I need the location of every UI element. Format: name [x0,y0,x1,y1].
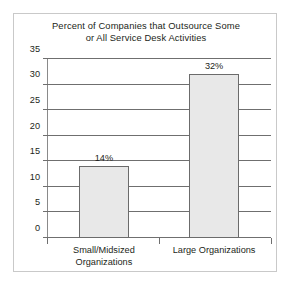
y-tick-mark-10 [43,186,48,187]
y-tick-label-25: 25 [30,96,40,105]
y-tick-mark-35 [43,58,48,59]
y-tick-label-30: 30 [30,71,40,80]
y-tick-label-20: 20 [30,122,40,131]
y-tick-mark-20 [43,135,48,136]
y-tick-label-5: 5 [35,199,40,208]
y-tick-mark-25 [43,109,48,110]
category-divider-middle [159,238,160,244]
plot-area: 35 30 25 20 15 10 5 0 14% 32% Small/Mids… [47,59,271,238]
y-tick-label-10: 10 [30,173,40,182]
bar-label-small-midsized-organizations: 14% [95,154,113,163]
chart-title-line-1: Percent of Companies that Outsource Some [22,20,270,32]
category-divider-right [271,238,272,244]
x-axis-label-large-organizations: Large Organizations [173,245,256,257]
gridline-35 [47,58,271,59]
y-tick-mark-30 [43,84,48,85]
category-divider-left [47,238,48,244]
bar-large-organizations[interactable] [189,74,239,238]
y-tick-mark-15 [43,160,48,161]
bar-small-midsized-organizations[interactable] [79,166,129,238]
x-axis-label-small-midsized-organizations: Small/Midsized Organizations [73,245,135,268]
x-axis-label-line-1: Small/Midsized [73,245,135,257]
chart-title: Percent of Companies that Outsource Some… [22,20,270,44]
chart-figure: Percent of Companies that Outsource Some… [13,13,277,272]
chart-title-line-2: or All Service Desk Activities [22,32,270,44]
x-axis-label-line-2: Organizations [73,257,135,269]
y-tick-label-15: 15 [30,147,40,156]
y-tick-mark-5 [43,211,48,212]
y-tick-label-35: 35 [30,45,40,54]
bar-label-large-organizations: 32% [205,62,223,71]
y-tick-label-0: 0 [35,224,40,233]
x-axis-label-line-1: Large Organizations [173,245,256,257]
